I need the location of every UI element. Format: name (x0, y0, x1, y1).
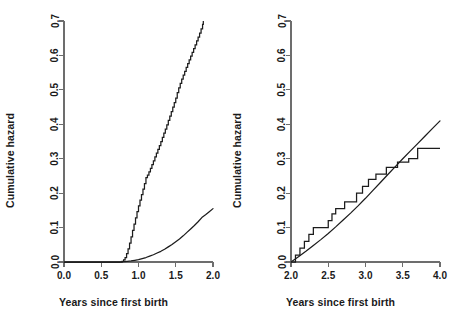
x-tick-label: 2.5 (321, 270, 335, 281)
y-tick-label: 0.5 (50, 82, 61, 96)
y-tick-label: 0.3 (277, 151, 288, 165)
y-tick-label: 0.6 (50, 48, 61, 62)
x-tick-label: 4.0 (433, 270, 447, 281)
y-tick-label: 0.1 (50, 220, 61, 234)
left-panel-plot: 0.00.51.01.52.00.00.10.20.30.40.50.60.7 (0, 0, 227, 321)
y-tick-label: 0.6 (277, 48, 288, 62)
step-curve (64, 21, 203, 262)
y-tick-label: 0.0 (277, 255, 288, 269)
y-tick-label: 0.4 (50, 117, 61, 131)
y-tick-label: 0.5 (277, 82, 288, 96)
x-tick-label: 1.5 (169, 270, 183, 281)
right-panel-x-axis-label: Years since first birth (227, 296, 454, 308)
x-tick-label: 3.5 (396, 270, 410, 281)
right-panel-plot: 2.02.53.03.54.00.00.10.20.30.40.50.60.7 (227, 0, 454, 321)
left-panel-x-axis-label: Years since first birth (0, 296, 227, 308)
y-tick-label: 0.0 (50, 255, 61, 269)
y-tick-label: 0.7 (277, 14, 288, 28)
x-tick-label: 0.0 (57, 270, 71, 281)
x-tick-label: 2.0 (206, 270, 220, 281)
y-tick-label: 0.4 (277, 117, 288, 131)
left-panel: Cumulative hazard 0.00.51.01.52.00.00.10… (0, 0, 227, 321)
y-tick-label: 0.2 (277, 186, 288, 200)
y-tick-label: 0.1 (277, 220, 288, 234)
figure-root: Cumulative hazard 0.00.51.01.52.00.00.10… (0, 0, 454, 321)
y-tick-label: 0.3 (50, 151, 61, 165)
y-tick-label: 0.7 (50, 14, 61, 28)
x-tick-label: 1.0 (132, 270, 146, 281)
x-tick-label: 2.0 (284, 270, 298, 281)
smooth-curve (291, 121, 440, 262)
smooth-curve (64, 209, 213, 262)
right-panel: Cumulative hazard 2.02.53.03.54.00.00.10… (227, 0, 454, 321)
x-tick-label: 0.5 (94, 270, 108, 281)
x-tick-label: 3.0 (359, 270, 373, 281)
y-tick-label: 0.2 (50, 186, 61, 200)
